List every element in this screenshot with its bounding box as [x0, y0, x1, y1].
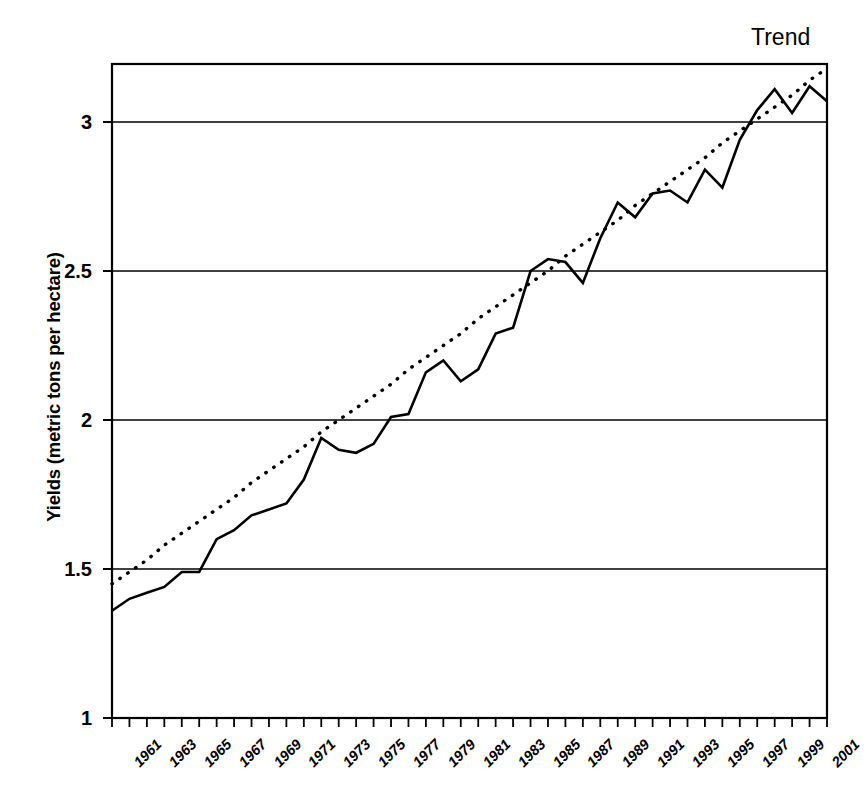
- yields-line-path: [112, 86, 827, 610]
- plot-frame: [112, 64, 827, 718]
- trend-line-path: [112, 68, 827, 584]
- gridlines: [112, 122, 827, 569]
- y-tick-label: 1: [28, 708, 92, 728]
- x-axis-tick-marks: [112, 718, 827, 727]
- y-tick-label: 2: [28, 410, 92, 430]
- chart-container: Yields (metric tons per hectare) Trend 1…: [0, 0, 867, 810]
- y-tick-label: 2.5: [28, 261, 92, 281]
- series-yields-line: [112, 86, 827, 610]
- y-tick-label: 1.5: [28, 559, 92, 579]
- plot-area: [0, 0, 867, 810]
- y-axis-tick-marks: [103, 122, 112, 718]
- series-trend-line: [112, 68, 827, 584]
- y-tick-label: 3: [28, 112, 92, 132]
